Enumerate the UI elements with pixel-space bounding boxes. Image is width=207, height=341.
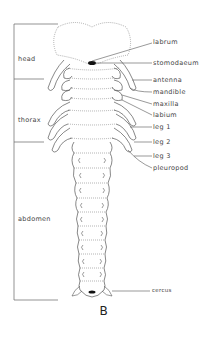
stomodaeum-shape [88, 61, 96, 65]
abdomen-outline [72, 142, 112, 297]
label-maxilla: maxilla [153, 101, 179, 108]
proctodaeum-shape [89, 290, 96, 293]
region-abdomen-label: abdomen [18, 216, 51, 223]
head-outline [54, 23, 131, 65]
region-brackets [14, 24, 58, 300]
label-leg-1: leg 1 [153, 124, 171, 131]
label-leg-2: leg 2 [153, 139, 171, 146]
mouthparts [62, 68, 123, 101]
segment-lines [66, 68, 120, 281]
label-pleuropod: pleuropod [153, 165, 189, 172]
label-cercus: cercus [152, 288, 172, 294]
abdominal-appendages [79, 158, 106, 277]
region-thorax-label: thorax [18, 117, 41, 124]
thoracic-legs [48, 102, 136, 152]
label-antenna: antenna [153, 77, 182, 84]
region-head-label: head [18, 56, 35, 63]
label-leg-3: leg 3 [153, 153, 171, 160]
label-labium: labium [153, 112, 177, 119]
label-mandible: mandible [153, 89, 186, 96]
label-labrum: labrum [153, 39, 178, 46]
figure-caption: B [0, 304, 207, 318]
label-stomodaeum: stomodaeum [153, 60, 199, 67]
